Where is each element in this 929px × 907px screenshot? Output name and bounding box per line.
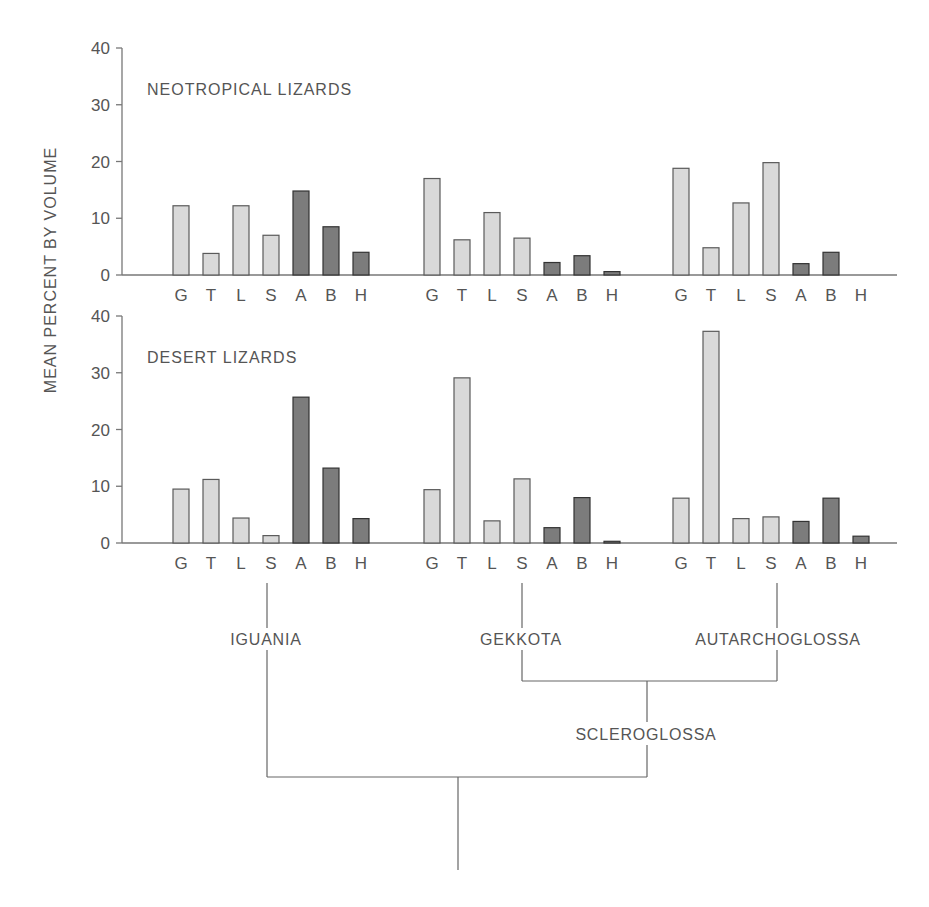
phylogeny-tree: IGUANIA GEKKOTA AUTARCHOGLOSSA SCLEROGLO… [230, 583, 861, 870]
category-label: A [546, 554, 558, 573]
category-label: L [236, 286, 245, 305]
bar-desert-autarchoglossa-L [733, 519, 749, 543]
category-label: H [355, 554, 367, 573]
bar-desert-iguania-A [293, 397, 309, 543]
category-label: G [425, 554, 438, 573]
lizard-diet-chart: MEAN PERCENT BY VOLUME NEOTROPICAL LIZAR… [0, 0, 929, 907]
category-label: G [174, 286, 187, 305]
bar-desert-iguania-S [263, 536, 279, 543]
bar-neotropical-gekkota-B [574, 256, 590, 275]
bar-neotropical-iguania-B [323, 227, 339, 275]
clade-label-scleroglossa: SCLEROGLOSSA [575, 726, 716, 743]
category-label: H [355, 286, 367, 305]
panel-title-neotropical: NEOTROPICAL LIZARDS [147, 81, 352, 98]
bar-desert-gekkota-T [454, 378, 470, 543]
category-label: H [855, 286, 867, 305]
y-tick-label: 20 [91, 421, 110, 440]
category-label: T [706, 554, 716, 573]
bar-neotropical-autarchoglossa-B [823, 252, 839, 275]
bar-desert-autarchoglossa-B [823, 498, 839, 543]
bar-desert-iguania-T [203, 479, 219, 543]
bar-desert-iguania-G [173, 489, 189, 543]
category-label: B [825, 554, 836, 573]
clade-label-iguania: IGUANIA [230, 631, 301, 648]
category-label: G [425, 286, 438, 305]
category-label: L [736, 554, 745, 573]
bar-neotropical-gekkota-S [514, 238, 530, 275]
category-label: A [795, 286, 807, 305]
category-label: B [325, 554, 336, 573]
neotropical-panel: NEOTROPICAL LIZARDS 010203040GTLSABHGTLS… [91, 39, 897, 305]
category-label: A [295, 286, 307, 305]
y-tick-label: 0 [101, 266, 110, 285]
category-label: A [795, 554, 807, 573]
bar-desert-gekkota-L [484, 521, 500, 543]
bar-neotropical-iguania-L [233, 206, 249, 275]
bar-neotropical-iguania-H [353, 252, 369, 275]
category-label: S [265, 554, 276, 573]
y-axis-title: MEAN PERCENT BY VOLUME [42, 147, 59, 393]
bar-desert-gekkota-B [574, 498, 590, 543]
y-tick-label: 20 [91, 153, 110, 172]
bar-desert-autarchoglossa-A [793, 521, 809, 543]
y-tick-label: 30 [91, 96, 110, 115]
y-tick-label: 30 [91, 364, 110, 383]
category-label: B [576, 286, 587, 305]
y-tick-label: 40 [91, 39, 110, 58]
bar-neotropical-autarchoglossa-G [673, 168, 689, 275]
category-label: T [206, 286, 216, 305]
category-label: B [325, 286, 336, 305]
category-label: L [236, 554, 245, 573]
category-label: S [765, 554, 776, 573]
category-label: B [576, 554, 587, 573]
bar-neotropical-autarchoglossa-A [793, 264, 809, 275]
bar-neotropical-gekkota-H [604, 272, 620, 275]
y-tick-label: 0 [101, 534, 110, 553]
category-label: S [516, 554, 527, 573]
clade-label-autarchoglossa: AUTARCHOGLOSSA [695, 631, 861, 648]
category-label: L [487, 286, 496, 305]
bar-desert-gekkota-A [544, 528, 560, 543]
clade-label-gekkota: GEKKOTA [480, 631, 562, 648]
bar-neotropical-iguania-T [203, 253, 219, 275]
category-label: L [487, 554, 496, 573]
category-label: H [606, 554, 618, 573]
y-tick-label: 10 [91, 477, 110, 496]
bar-neotropical-autarchoglossa-T [703, 248, 719, 275]
category-label: B [825, 286, 836, 305]
category-label: H [606, 286, 618, 305]
bar-desert-gekkota-G [424, 490, 440, 543]
bar-neotropical-iguania-S [263, 235, 279, 275]
bar-desert-gekkota-H [604, 541, 620, 543]
bar-neotropical-iguania-A [293, 191, 309, 275]
bar-desert-autarchoglossa-G [673, 498, 689, 543]
bar-neotropical-gekkota-T [454, 240, 470, 275]
category-label: G [174, 554, 187, 573]
category-label: G [674, 286, 687, 305]
category-label: S [516, 286, 527, 305]
y-tick-label: 10 [91, 209, 110, 228]
category-label: L [736, 286, 745, 305]
bar-desert-iguania-L [233, 518, 249, 543]
bar-neotropical-gekkota-L [484, 213, 500, 275]
bar-desert-iguania-B [323, 468, 339, 543]
category-label: H [855, 554, 867, 573]
category-label: G [674, 554, 687, 573]
bar-desert-autarchoglossa-H [853, 536, 869, 543]
bar-desert-autarchoglossa-T [703, 331, 719, 543]
category-label: T [206, 554, 216, 573]
category-label: T [457, 286, 467, 305]
bar-desert-iguania-H [353, 519, 369, 543]
bar-neotropical-autarchoglossa-L [733, 203, 749, 275]
bar-neotropical-gekkota-G [424, 179, 440, 275]
panel-title-desert: DESERT LIZARDS [147, 349, 297, 366]
bar-neotropical-gekkota-A [544, 263, 560, 275]
y-tick-label: 40 [91, 307, 110, 326]
desert-panel: DESERT LIZARDS 010203040GTLSABHGTLSABHGT… [91, 307, 897, 573]
bar-neotropical-autarchoglossa-S [763, 163, 779, 275]
category-label: A [295, 554, 307, 573]
bar-neotropical-iguania-G [173, 206, 189, 275]
bar-desert-gekkota-S [514, 479, 530, 543]
category-label: A [546, 286, 558, 305]
category-label: S [765, 286, 776, 305]
